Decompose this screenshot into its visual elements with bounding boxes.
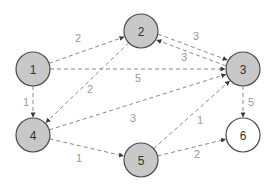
node-label: 6 bbox=[240, 129, 247, 143]
edge-4-to-5 bbox=[50, 139, 124, 156]
edge-weight-label: 2 bbox=[194, 148, 200, 160]
graph-diagram: 25123331125 123456 bbox=[0, 0, 278, 189]
node-label: 4 bbox=[30, 129, 37, 143]
node-label: 3 bbox=[240, 63, 247, 77]
edge-weight-label: 5 bbox=[135, 72, 141, 84]
node-5: 5 bbox=[124, 143, 158, 177]
edge-3-to-2 bbox=[157, 40, 226, 66]
node-3: 3 bbox=[226, 52, 260, 86]
nodes-layer: 123456 bbox=[16, 14, 260, 177]
node-label: 1 bbox=[30, 63, 37, 77]
edge-weight-label: 1 bbox=[197, 114, 203, 126]
edge-weight-label: 2 bbox=[75, 32, 81, 44]
edge-weight-label: 3 bbox=[193, 30, 199, 42]
edge-weight-label: 1 bbox=[23, 96, 29, 108]
node-4: 4 bbox=[16, 118, 50, 152]
edge-5-to-6 bbox=[158, 139, 226, 156]
edge-5-to-3 bbox=[154, 81, 230, 149]
node-label: 5 bbox=[138, 154, 145, 168]
edge-weight-label: 1 bbox=[76, 152, 82, 164]
node-1: 1 bbox=[16, 52, 50, 86]
edge-weight-label: 2 bbox=[87, 83, 93, 95]
node-2: 2 bbox=[124, 14, 158, 48]
edge-weight-label: 5 bbox=[248, 96, 254, 108]
edge-1-to-2 bbox=[49, 37, 124, 63]
node-label: 2 bbox=[138, 25, 145, 39]
edge-weight-label: 3 bbox=[181, 51, 187, 63]
node-6: 6 bbox=[226, 118, 260, 152]
edge-weight-label: 3 bbox=[130, 112, 136, 124]
